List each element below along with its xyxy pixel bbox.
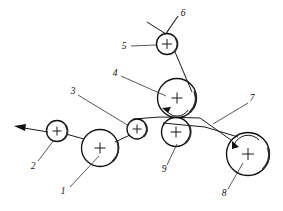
callout-label-4: 4	[113, 68, 118, 78]
exit-web-arrowhead-icon	[14, 124, 26, 131]
incoming-web-strand	[147, 16, 178, 34]
roller-center-cross-icon	[242, 148, 254, 160]
roller-center-cross-icon	[133, 125, 142, 134]
transfer-web-strand-right	[163, 123, 238, 137]
roller-top-guide-small	[157, 34, 178, 55]
roller-idler-small-center	[127, 119, 147, 139]
roller-wind-up-large-right	[227, 133, 270, 176]
leader-line-3	[78, 95, 129, 126]
roller-center-cross-icon	[95, 143, 106, 154]
roller-exit-guide-small-left	[47, 121, 68, 142]
rotation-arc-counter-clockwise-icon	[166, 110, 188, 116]
roller-center-cross-icon	[162, 39, 172, 49]
figure-root: 1 2 3 4 5 6 7 8 9	[0, 0, 283, 211]
callout-label-5: 5	[122, 41, 127, 51]
roller-center-cross-icon	[171, 127, 182, 138]
callout-label-3: 3	[70, 86, 76, 96]
callout-label-8: 8	[222, 188, 227, 198]
web-strand-one-to-two	[66, 134, 84, 139]
leader-line-4	[121, 76, 166, 96]
callout-label-9: 9	[162, 164, 167, 174]
roller-drive-large-upper	[158, 79, 197, 118]
web-strand-five-to-four	[175, 52, 192, 92]
leader-line-5	[131, 45, 156, 46]
leader-line-6	[166, 16, 178, 33]
roller-pressure-lower-center	[162, 118, 191, 147]
roller-center-cross-icon	[53, 127, 62, 136]
leader-line-2	[38, 140, 54, 161]
leader-line-9	[167, 144, 177, 165]
callout-label-1: 1	[61, 186, 66, 196]
roller-assembly-diagram: 1 2 3 4 5 6 7 8 9	[0, 0, 283, 211]
callout-label-6: 6	[181, 8, 186, 18]
roller-center-cross-icon	[172, 93, 183, 104]
callout-label-2: 2	[31, 161, 36, 171]
callout-label-7: 7	[250, 93, 256, 103]
leader-line-1	[70, 156, 99, 187]
leader-line-7	[213, 103, 248, 124]
roller-main-nip-large-left	[82, 130, 119, 167]
